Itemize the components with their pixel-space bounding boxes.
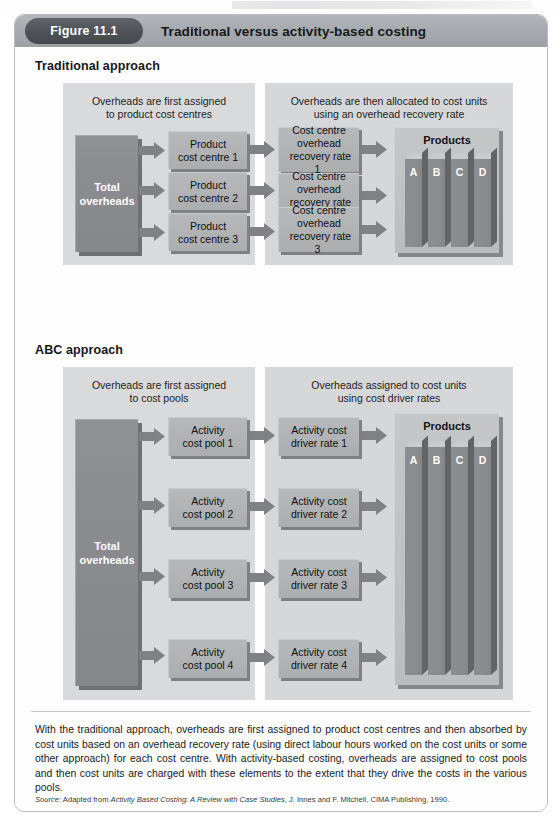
product-bar-label: C: [451, 454, 468, 466]
product-bar-d: D: [474, 447, 491, 675]
box-line: Activity: [188, 424, 227, 436]
process-box-activity-cost-pool-3: Activity cost pool 3: [168, 559, 247, 598]
arrow-right-icon: [250, 427, 275, 444]
process-box-activity-cost-pool-2: Activity cost pool 2: [168, 488, 247, 527]
caption-traditional-right-2: using an overhead recovery rate: [265, 108, 513, 121]
products-title: Products: [395, 420, 499, 432]
figure-number-pill: Figure 11.1: [25, 18, 143, 44]
arrow-right-icon: [362, 427, 387, 444]
product-bar-label: D: [474, 454, 491, 466]
caption-traditional-left-1: Overheads are first assigned: [63, 95, 255, 108]
products-block-abc: Products A B C D: [394, 413, 499, 685]
page-top-bleed: [0, 0, 560, 13]
box-line: Cost centre: [289, 170, 349, 182]
process-box-driver-rate-4: Activity cost driver rate 4: [278, 639, 359, 678]
source-rest: , J. Innes and F. Mitchell, CIMA Publish…: [285, 795, 450, 804]
product-bar-d: D: [474, 159, 491, 247]
total-overheads-line-1: Total: [94, 181, 119, 193]
process-box-driver-rate-1: Activity cost driver rate 1: [278, 417, 359, 456]
product-bar-label: B: [428, 454, 445, 466]
process-box-product-cost-centre-3: Product cost centre 3: [168, 213, 247, 251]
section-heading-abc: ABC approach: [35, 343, 123, 357]
process-box-recovery-rate-3: Cost centre overhead recovery rate 3: [278, 207, 359, 252]
box-line: Product: [187, 138, 229, 150]
product-bar-a: A: [405, 447, 422, 675]
box-line: cost centre 1: [175, 151, 241, 163]
figure-card: Figure 11.1 Traditional versus activity-…: [14, 14, 548, 812]
caption-abc-right-2: using cost driver rates: [265, 392, 513, 405]
bar-side-face: [491, 436, 497, 675]
total-overheads-line-1: Total: [94, 540, 119, 552]
box-line: cost pool 1: [180, 437, 237, 449]
arrow-right-icon: [362, 649, 387, 666]
box-line: overhead: [294, 217, 344, 229]
figure-number-label: Figure 11.1: [50, 24, 118, 38]
caption-traditional-left-2: to product cost centres: [63, 108, 255, 121]
box-line: overhead: [294, 137, 344, 149]
product-bar-label: D: [474, 166, 491, 178]
product-bar-a: A: [405, 159, 422, 247]
process-box-driver-rate-2: Activity cost driver rate 2: [278, 488, 359, 527]
arrow-right-icon: [139, 182, 165, 199]
total-overheads-line-2: overheads: [79, 554, 134, 566]
product-bar-b: B: [428, 159, 445, 247]
figure-caption-text: With the traditional approach, overheads…: [35, 723, 527, 796]
product-bar-c: C: [451, 447, 468, 675]
box-line: recovery rate 3: [287, 230, 351, 255]
arrow-right-icon: [250, 141, 275, 158]
caption-abc-right-1: Overheads assigned to cost units: [265, 379, 513, 392]
box-line: cost pool 2: [180, 508, 237, 520]
box-line: cost pool 4: [180, 659, 237, 671]
arrow-right-icon: [139, 647, 165, 664]
product-bar-label: C: [451, 166, 468, 178]
box-line: cost pool 3: [180, 579, 237, 591]
arrow-right-icon: [250, 223, 275, 240]
arrow-right-icon: [139, 142, 165, 159]
figure-title: Traditional versus activity-based costin…: [161, 15, 426, 47]
arrow-right-icon: [362, 498, 387, 515]
arrow-right-icon: [250, 649, 275, 666]
box-line: Activity cost: [288, 566, 349, 578]
process-box-driver-rate-3: Activity cost driver rate 3: [278, 559, 359, 598]
box-line: cost centre 2: [175, 192, 241, 204]
arrow-right-icon: [362, 221, 387, 238]
source-prefix: Source:: [35, 795, 61, 804]
box-line: Product: [187, 179, 229, 191]
box-line: overhead: [294, 183, 344, 195]
product-bar-label: A: [405, 166, 422, 178]
figure-body: Traditional approach Overheads are first…: [15, 47, 547, 811]
box-line: Cost centre: [289, 204, 349, 216]
products-title: Products: [395, 134, 499, 146]
box-line: Cost centre: [289, 124, 349, 136]
box-line: Activity cost: [288, 495, 349, 507]
arrow-right-icon: [250, 498, 275, 515]
product-bar-b: B: [428, 447, 445, 675]
figure-source-line: Source: Adapted from Activity Based Cost…: [35, 795, 527, 805]
box-line: Activity: [188, 495, 227, 507]
caption-traditional-right-1: Overheads are then allocated to cost uni…: [265, 95, 513, 108]
total-overheads-block-abc: Total overheads: [75, 419, 138, 686]
box-line: Activity: [188, 566, 227, 578]
arrow-right-icon: [362, 187, 387, 204]
box-line: Activity: [188, 646, 227, 658]
process-box-recovery-rate-1: Cost centre overhead recovery rate 1: [278, 127, 359, 172]
figure-title-bar: Figure 11.1 Traditional versus activity-…: [15, 15, 547, 47]
arrow-right-icon: [139, 224, 165, 241]
arrow-right-icon: [139, 568, 165, 585]
box-line: cost centre 3: [175, 233, 241, 245]
bar-side-face: [491, 148, 497, 247]
product-bar-c: C: [451, 159, 468, 247]
arrow-right-icon: [250, 182, 275, 199]
box-line: Activity cost: [288, 646, 349, 658]
process-box-product-cost-centre-1: Product cost centre 1: [168, 131, 247, 169]
process-box-product-cost-centre-2: Product cost centre 2: [168, 172, 247, 210]
caption-abc-left-2: to cost pools: [63, 392, 255, 405]
caption-divider: [31, 711, 531, 712]
section-heading-traditional: Traditional approach: [35, 59, 160, 73]
arrow-right-icon: [362, 141, 387, 158]
box-line: Product: [187, 220, 229, 232]
running-head-ghost: [232, 1, 532, 9]
arrow-right-icon: [139, 497, 165, 514]
total-overheads-line-2: overheads: [79, 195, 134, 207]
arrow-right-icon: [139, 428, 165, 445]
